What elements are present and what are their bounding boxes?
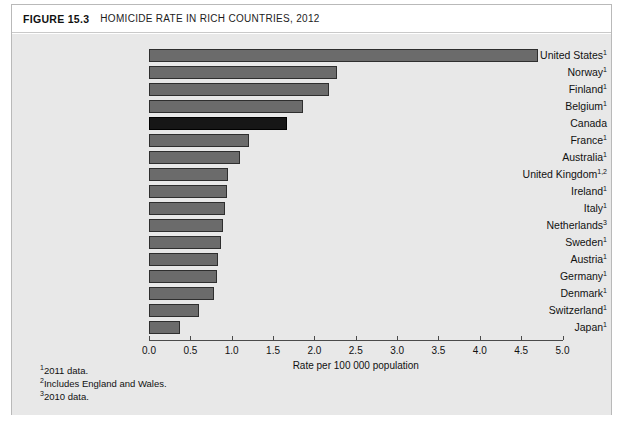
x-axis-tick: [480, 336, 481, 340]
footnote-item: 32010 data.: [40, 390, 167, 403]
bar-category-label: Switzerland1: [474, 303, 611, 318]
bar-row: Sweden1: [12, 235, 611, 250]
x-axis-tick-label: 4.0: [460, 345, 500, 356]
chart-panel: United States1Norway1Finland1Belgium1Can…: [12, 34, 611, 415]
bar-category-label: Canada: [474, 116, 611, 131]
bar-category-label: Denmark1: [474, 286, 611, 301]
bar-highlighted: [149, 117, 287, 130]
bar-category-label: Austria1: [474, 252, 611, 267]
figure-container: FIGURE 15.3 HOMICIDE RATE IN RICH COUNTR…: [11, 4, 612, 415]
bar-category-label: Germany1: [474, 269, 611, 284]
bar-row: Germany1: [12, 269, 611, 284]
bar-category-label: France1: [474, 133, 611, 148]
bar: [149, 185, 227, 198]
footnote-item: 12011 data.: [40, 364, 167, 377]
x-axis-tick-label: 0.5: [170, 345, 210, 356]
bar: [149, 66, 337, 79]
x-axis-tick-label: 3.0: [377, 345, 417, 356]
bar: [149, 168, 228, 181]
x-axis-tick-label: 1.5: [253, 345, 293, 356]
bar: [149, 270, 217, 283]
bar-chart: United States1Norway1Finland1Belgium1Can…: [12, 34, 611, 415]
bar-row: United States1: [12, 48, 611, 63]
bar: [149, 202, 225, 215]
bar: [149, 134, 249, 147]
x-axis-tick-label: 4.5: [501, 345, 541, 356]
bar-row: Belgium1: [12, 99, 611, 114]
bar-row: Finland1: [12, 82, 611, 97]
bar: [149, 49, 538, 62]
bar-category-label: Belgium1: [474, 99, 611, 114]
footnote-item: 2Includes England and Wales.: [40, 377, 167, 390]
bar: [149, 151, 240, 164]
bar-row: Japan1: [12, 320, 611, 335]
bar-category-label: United Kingdom1,2: [474, 167, 611, 182]
x-axis-tick: [273, 336, 274, 340]
bar: [149, 219, 223, 232]
x-axis-tick-label: 0.0: [129, 345, 169, 356]
bar-row: Australia1: [12, 150, 611, 165]
bar-row: France1: [12, 133, 611, 148]
bar-category-label: Sweden1: [474, 235, 611, 250]
bar-row: Norway1: [12, 65, 611, 80]
x-axis-tick: [397, 336, 398, 340]
bar: [149, 253, 218, 266]
bar-row: Denmark1: [12, 286, 611, 301]
x-axis-tick: [438, 336, 439, 340]
bar-row: Canada: [12, 116, 611, 131]
x-axis-tick: [356, 336, 357, 340]
figure-title: HOMICIDE RATE IN RICH COUNTRIES, 2012: [100, 13, 319, 24]
bar-row: Netherlands3: [12, 218, 611, 233]
x-axis-tick-label: 2.0: [294, 345, 334, 356]
x-axis-tick-label: 3.5: [418, 345, 458, 356]
x-axis-tick: [563, 336, 564, 340]
bar: [149, 321, 180, 334]
bar-category-label: Australia1: [474, 150, 611, 165]
bar: [149, 287, 214, 300]
figure-header: FIGURE 15.3 HOMICIDE RATE IN RICH COUNTR…: [12, 5, 611, 33]
bar: [149, 100, 303, 113]
bar-row: United Kingdom1,2: [12, 167, 611, 182]
footnotes-list: 12011 data.2Includes England and Wales.3…: [40, 364, 167, 403]
x-axis-tick: [149, 336, 150, 340]
bar-category-label: Ireland1: [474, 184, 611, 199]
x-axis-tick: [314, 336, 315, 340]
bar-category-label: Japan1: [474, 320, 611, 335]
x-axis-tick-label: 1.0: [212, 345, 252, 356]
bar-category-label: Finland1: [474, 82, 611, 97]
bar: [149, 304, 199, 317]
x-axis-title: Rate per 100 000 population: [226, 360, 486, 371]
bar-row: Italy1: [12, 201, 611, 216]
bar-row: Ireland1: [12, 184, 611, 199]
x-axis-tick: [190, 336, 191, 340]
bar: [149, 83, 329, 96]
bar-row: Austria1: [12, 252, 611, 267]
bar-row: Switzerland1: [12, 303, 611, 318]
x-axis-line: [149, 340, 563, 341]
bar-category-label: Italy1: [474, 201, 611, 216]
x-axis-tick: [521, 336, 522, 340]
x-axis-tick-label: 2.5: [336, 345, 376, 356]
figure-number: FIGURE 15.3: [23, 13, 89, 25]
bar-category-label: Norway1: [474, 65, 611, 80]
bar: [149, 236, 221, 249]
bar-category-label: Netherlands3: [474, 218, 611, 233]
x-axis-tick-label: 5.0: [543, 345, 583, 356]
x-axis-tick: [232, 336, 233, 340]
